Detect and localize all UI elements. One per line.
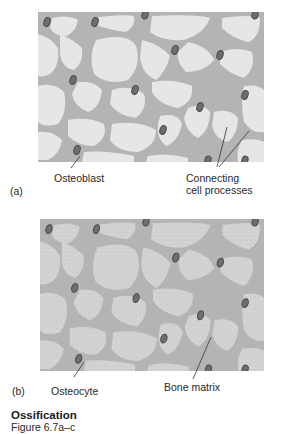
osteocyte-label: Osteocyte	[51, 385, 98, 397]
connecting-processes-label-line1: Connecting	[186, 172, 239, 184]
panel-b-tag: (b)	[12, 385, 25, 397]
panel-b-illustration	[40, 219, 264, 371]
figure-title: Ossification	[11, 409, 77, 421]
osteocyte-network-illustration	[40, 219, 264, 371]
osteoblast-network-illustration	[38, 12, 264, 162]
osteoblast-label: Osteoblast	[54, 172, 104, 184]
figure-subtitle: Figure 6.7a–c	[11, 421, 75, 433]
panel-a-illustration	[38, 12, 264, 162]
bone-matrix-label: Bone matrix	[164, 381, 220, 393]
connecting-processes-label-line2: cell processes	[186, 184, 253, 196]
panel-a-tag: (a)	[10, 185, 23, 197]
